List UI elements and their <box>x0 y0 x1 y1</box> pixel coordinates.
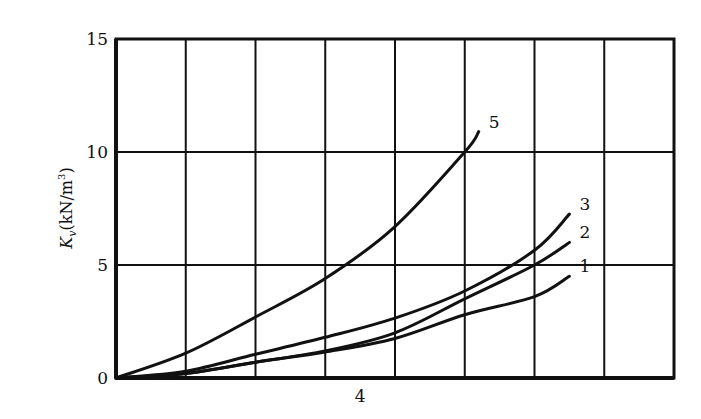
curve-label-5: 5 <box>489 112 500 132</box>
y-tick-label: 5 <box>97 255 108 275</box>
y-axis-label: Kv(kN/m3) <box>56 167 79 249</box>
curve-labels: 1235 <box>489 112 591 277</box>
curve-1 <box>116 276 569 378</box>
curves <box>116 132 569 378</box>
chart: 1235 051015 4 Kv(kN/m3) <box>0 0 701 419</box>
curve-2 <box>116 242 569 378</box>
y-tick-label: 0 <box>97 368 108 388</box>
curve-5 <box>116 132 479 378</box>
curve-label-2: 2 <box>579 222 590 242</box>
y-axis-ticks: 051015 <box>86 29 108 388</box>
curve-label-3: 3 <box>579 194 590 214</box>
y-tick-label: 10 <box>86 142 108 162</box>
grid <box>116 39 674 378</box>
x-axis-ticks: 4 <box>355 386 366 406</box>
curve-label-1: 1 <box>579 256 590 276</box>
x-tick-label: 4 <box>355 386 366 406</box>
y-tick-label: 15 <box>86 29 108 49</box>
